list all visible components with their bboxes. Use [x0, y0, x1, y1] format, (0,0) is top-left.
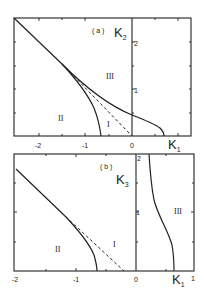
- panel-b: -2 -1 0 1 1 2 K1 K3 ( b ) II I III: [12, 154, 195, 288]
- panel-a-x-axis-label: K1: [168, 137, 181, 153]
- panel-a-ytick-label: 2: [134, 40, 138, 47]
- panel-b-xtick-label: -1: [73, 276, 79, 283]
- panel-a: -2 -1 0 1 2 K1 K2 ( a ) II I III: [14, 18, 191, 153]
- panel-b-ytick-label: 2: [137, 155, 141, 162]
- panel-a-side-ticks: [14, 42, 191, 113]
- panel-a-region-I: I: [107, 120, 110, 129]
- panel-a-ytick-label: 1: [134, 87, 138, 94]
- panel-b-ytick-label: 1: [136, 209, 140, 216]
- panel-b-curve-I-III: [149, 154, 174, 271]
- panel-b-xtick-label: 0: [134, 276, 138, 283]
- phase-diagram-figure: -2 -1 0 1 2 K1 K2 ( a ) II I III: [0, 0, 204, 301]
- panel-b-xtick-label: -2: [12, 276, 18, 283]
- panel-b-curve-II-I: [16, 169, 97, 271]
- panel-a-region-II: II: [58, 114, 64, 123]
- panel-a-xtick-label: -2: [35, 142, 41, 149]
- panel-a-label: ( a ): [92, 27, 104, 35]
- panel-a-region-III: III: [106, 72, 114, 81]
- panel-b-label: ( b ): [100, 163, 112, 171]
- panel-b-frame: [14, 154, 194, 271]
- panel-b-side-ticks: [14, 183, 194, 242]
- panel-b-y-axis-label: K3: [116, 172, 129, 188]
- panel-b-region-II: II: [55, 245, 61, 254]
- panel-a-xtick-label: 0: [130, 142, 134, 149]
- panel-b-x-axis-label: K1: [172, 272, 185, 288]
- panel-a-xtick-label: -1: [82, 142, 88, 149]
- panel-b-xtick-label: 1: [191, 275, 195, 282]
- panel-a-y-axis-label: K2: [114, 25, 127, 41]
- panel-b-region-III: III: [174, 207, 182, 216]
- panel-a-frame: [14, 18, 191, 136]
- panel-b-region-I: I: [113, 240, 116, 249]
